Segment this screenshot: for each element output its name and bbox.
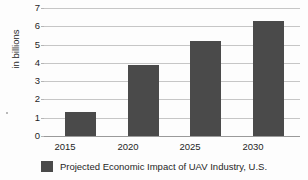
bar-2015 (65, 112, 96, 136)
gridline-7 (44, 8, 300, 9)
legend-entry-label: Projected Economic Impact of UAV Industr… (60, 161, 267, 172)
legend-swatch-icon (41, 161, 53, 172)
bar-2030 (253, 21, 284, 136)
y-tick-label-0: 0 (26, 131, 40, 141)
y-tick-label-3: 3 (26, 76, 40, 86)
x-tick-label-2015: 2015 (42, 141, 88, 152)
bar-2020 (128, 65, 159, 136)
chart-legend: Projected Economic Impact of UAV Industr… (0, 161, 308, 172)
bar-chart: in billions 7 6 5 4 3 2 1 0 2015 2020 20 (0, 0, 308, 180)
axis-baseline (44, 136, 300, 137)
x-tick-label-2020: 2020 (105, 141, 151, 152)
y-tick-label-4: 4 (26, 58, 40, 68)
y-tick-label-5: 5 (26, 40, 40, 50)
x-tick-label-2030: 2030 (230, 141, 276, 152)
y-axis-title: in billions (11, 20, 21, 78)
x-tick-label-2025: 2025 (167, 141, 213, 152)
bar-2025 (190, 41, 221, 136)
y-tick-label-7: 7 (26, 3, 40, 13)
plot-area (44, 8, 300, 136)
y-tick-label-1: 1 (26, 113, 40, 123)
y-tick-label-6: 6 (26, 21, 40, 31)
scan-artifact (6, 112, 8, 114)
y-tick-label-2: 2 (26, 94, 40, 104)
